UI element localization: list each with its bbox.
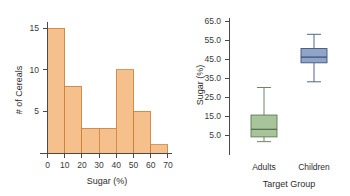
boxplot-y-tick-label-5: 5.0 bbox=[209, 130, 221, 140]
figure-canvas: 5 10 15 0 10 20 30 40 50 60 70 S bbox=[0, 0, 350, 196]
figure-root: 5 10 15 0 10 20 30 40 50 60 70 S bbox=[0, 0, 350, 196]
histogram-y-axis-title: # of Cereals bbox=[14, 65, 24, 114]
histogram-y-tick-label-10: 10 bbox=[30, 65, 40, 75]
histogram-x-axis-title: Sugar (%) bbox=[87, 176, 128, 186]
hist-bar-40-50 bbox=[116, 70, 133, 153]
adults-box bbox=[251, 115, 277, 137]
hist-bar-20-30 bbox=[82, 128, 99, 153]
histogram-y-tick-label-15: 15 bbox=[30, 23, 40, 33]
boxplot-box-children bbox=[301, 34, 327, 82]
boxplot-y-ticks bbox=[225, 21, 230, 135]
histogram-x-tick-label-10: 10 bbox=[60, 160, 70, 170]
hist-bar-60-70 bbox=[151, 145, 168, 153]
boxplot-y-tick-label-35: 35.0 bbox=[204, 73, 221, 83]
histogram-x-tick-label-30: 30 bbox=[94, 160, 104, 170]
histogram-x-tick-label-0: 0 bbox=[45, 160, 50, 170]
histogram-bars bbox=[48, 28, 168, 153]
histogram-x-tick-label-70: 70 bbox=[163, 160, 173, 170]
histogram-panel: 5 10 15 0 10 20 30 40 50 60 70 S bbox=[14, 22, 173, 186]
hist-bar-50-60 bbox=[134, 111, 151, 153]
hist-bar-10-20 bbox=[65, 86, 82, 153]
histogram-x-tick-label-40: 40 bbox=[112, 160, 122, 170]
boxplot-y-tick-label-65: 65.0 bbox=[204, 16, 221, 26]
histogram-x-tick-label-20: 20 bbox=[77, 160, 87, 170]
boxplot-y-tick-label-55: 55.0 bbox=[204, 35, 221, 45]
histogram-y-ticks bbox=[43, 28, 48, 111]
boxplot-y-tick-label-15: 15.0 bbox=[204, 111, 221, 121]
boxplot-y-tick-label-45: 45.0 bbox=[204, 54, 221, 64]
boxplot-category-label-children: Children bbox=[298, 162, 330, 172]
histogram-y-tick-label-5: 5 bbox=[34, 106, 39, 116]
histogram-x-tick-label-60: 60 bbox=[146, 160, 156, 170]
boxplot-y-tick-label-25: 25.0 bbox=[204, 92, 221, 102]
boxplot-y-axis-title: Sugar (%) bbox=[195, 65, 205, 106]
histogram-x-ticks bbox=[48, 153, 168, 158]
boxplot-x-axis-title: Target Group bbox=[263, 179, 316, 189]
boxplot-panel: 5.0 15.0 25.0 35.0 45.0 55.0 65.0 bbox=[195, 16, 330, 189]
boxplot-category-label-adults: Adults bbox=[252, 162, 276, 172]
hist-bar-30-40 bbox=[99, 128, 116, 153]
boxplot-box-adults bbox=[251, 88, 277, 142]
hist-bar-0-10 bbox=[48, 28, 65, 153]
histogram-x-tick-label-50: 50 bbox=[129, 160, 139, 170]
children-box bbox=[301, 49, 327, 63]
